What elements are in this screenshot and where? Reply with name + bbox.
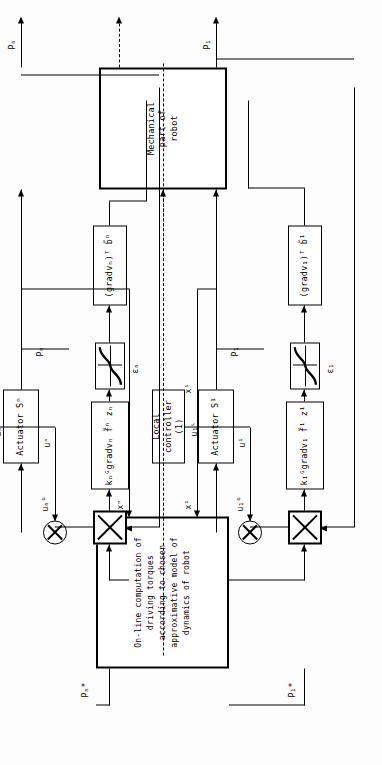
wire-sumn-to-actn-h [21, 463, 22, 532]
wire-localn-to-sumn-v [0, 426, 55, 427]
multiplier-1 [288, 510, 322, 544]
block-diagram-canvas: Mechanical part of robot On-line computa… [0, 0, 382, 765]
arrow-mult1-secondary [320, 525, 327, 531]
wire-mech-middle-dashed [163, 189, 164, 245]
label-Pn-out: Pₙ [8, 39, 17, 49]
wire-mult1-to-sum1-v [250, 526, 290, 527]
arrow-into-sat-1 [301, 389, 307, 396]
wire-Pn-tap-v [21, 348, 69, 349]
wire-P1-tap-v [216, 348, 264, 349]
gain-n-label: kₙᴳgradvₙ f̃ⁿ zₙ [104, 405, 115, 485]
saturation-curve-icon [291, 343, 320, 388]
label-P1-fb: P₁ [231, 346, 240, 356]
multiplier-n [93, 510, 127, 544]
arrow-into-gain-1 [301, 489, 307, 496]
label-Pn-fb: Pₙ [36, 346, 45, 356]
figure-page: Mechanical part of robot On-line computa… [0, 0, 382, 765]
wire-multn-to-sumn-v [55, 526, 95, 527]
out-Pn [21, 19, 22, 67]
arrow-xn-into-online [126, 510, 132, 517]
arrow-x1-into-online [194, 510, 200, 517]
arrow-out-P1 [213, 16, 219, 23]
label-u1: u¹ [238, 437, 247, 447]
arrow-into-mult-n [106, 544, 112, 551]
block-grad-b-1: (gradv₁)ᵀ b̃¹ [288, 225, 322, 305]
arrow-into-gradb-n [106, 305, 112, 312]
wire-gradbn-out [109, 201, 110, 225]
label-eps-1: ε₁ [326, 363, 335, 373]
wire-gradb1-out [304, 188, 305, 225]
label-x1-b: x¹ [184, 499, 193, 509]
block-grad-b-n: (gradvₙ)ᵀ b̃ⁿ [93, 225, 127, 305]
arrow-out-middle [116, 16, 122, 23]
wire-sum1-to-act1-h [216, 463, 217, 532]
arrow-into-gradb-1 [301, 305, 307, 312]
saturation-nonlinearity-n [95, 342, 125, 389]
rail-P1-down [216, 58, 354, 59]
summing-junction-n [43, 520, 67, 544]
arrow-into-sum-1-left [247, 514, 253, 521]
block-local-controller-1: Local controller (1) [152, 389, 185, 463]
label-u1L: u₁ᴸ [190, 421, 199, 436]
arrow-into-mechanical-n [18, 189, 24, 196]
wire-P1star-h [304, 668, 305, 705]
gain-1-label: k₁ᴳgradv₁ f̃¹ z¹ [299, 405, 310, 485]
wire-gradb1-to-mech-row [248, 100, 249, 188]
arrow-out-Pn [18, 16, 24, 23]
saturation-nonlinearity-1 [290, 342, 320, 389]
wire-gradb1-down [248, 187, 305, 188]
wire-localn-to-sumn-h [55, 427, 56, 520]
saturation-curve-icon [96, 343, 125, 388]
label-un: uⁿ [43, 437, 52, 447]
wire-x1-online-v [197, 288, 216, 289]
wire-gradbn-to-mech-row [146, 100, 147, 201]
arrow-into-actuator-1 [213, 463, 219, 470]
local-controller-1-label: Local controller (1) [151, 390, 185, 462]
summing-junction-1 [238, 520, 262, 544]
grad-b-1-label: (gradv₁)ᵀ b̃¹ [299, 233, 310, 297]
wire-online-to-mult-n-v [109, 579, 129, 580]
wire-local1-to-sum1-h [250, 427, 251, 520]
wire-xn-online-h [129, 289, 130, 516]
arrow-multn-secondary [125, 525, 132, 531]
arrow-into-actuator-n [18, 463, 24, 470]
wire-act1-to-mech [216, 189, 217, 389]
wire-x1-online-h [197, 289, 198, 516]
wire-mult1-secondary-h [354, 87, 355, 527]
label-x1-a: x¹ [184, 383, 193, 393]
out-P1 [216, 19, 217, 67]
wire-P1star-v [229, 704, 305, 705]
wire-gradbn-down [109, 200, 146, 201]
arrow-into-sum-n-left [52, 514, 58, 521]
wire-Pnstar-v [96, 704, 110, 705]
wire-Pnstar-h [109, 668, 110, 705]
channel-separator-dashed [163, 63, 164, 655]
arrow-into-mult-1 [301, 544, 307, 551]
wire-online-to-mult-1-v [228, 579, 305, 580]
label-unG: uₙᴳ [41, 496, 50, 511]
label-unL: uₙᴸ [0, 421, 3, 436]
block-gain-1: k₁ᴳgradv₁ f̃¹ z¹ [286, 401, 324, 489]
label-P1-star: P₁* [288, 682, 297, 697]
wire-xn-online-v [21, 288, 130, 289]
arrow-into-gain-n [106, 489, 112, 496]
arrow-into-mechanical-1 [213, 189, 219, 196]
label-xn-b: xⁿ [116, 499, 125, 509]
out-middle-dashed [119, 23, 120, 67]
label-u1G: u₁ᴳ [236, 496, 245, 511]
arrow-into-mechanical-middle [160, 189, 166, 196]
label-P1-out: P₁ [203, 39, 212, 49]
arrow-into-sat-n [106, 389, 112, 396]
rail-Pn-up [21, 74, 159, 75]
label-Pn-star: Pₙ* [81, 682, 90, 697]
label-eps-n: εₙ [131, 363, 140, 373]
block-gain-n: kₙᴳgradvₙ f̃ⁿ zₙ [91, 401, 129, 489]
wire-multn-secondary-h [159, 87, 160, 527]
